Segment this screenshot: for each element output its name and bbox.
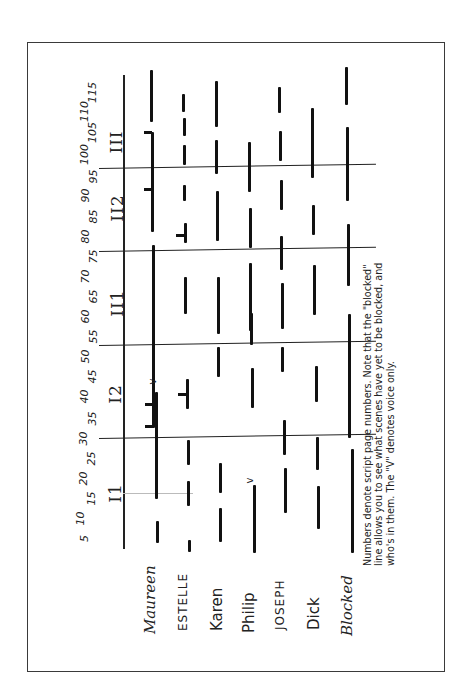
blocked-segment [348,314,351,438]
tick-label: 95 [87,170,100,184]
voice-only-mark: v [244,478,255,484]
scene-divider-ii1 [99,341,376,347]
estelle-segment [187,440,190,465]
joseph-segment [281,347,284,372]
estelle-segment [188,540,191,552]
tick-label: 20 [77,472,90,486]
tick-label: 55 [87,330,100,344]
philip-segment [251,368,254,408]
tick-label: 5 [78,535,91,542]
karen-segment [215,140,218,174]
blocked-segment [345,67,348,105]
scene-divider-ii2 [99,247,376,253]
dick-segment [316,437,319,470]
character-label-maureen: Maureen [141,565,159,634]
scene-divider-iii [99,164,376,170]
karen-segment [217,347,220,377]
maureen-entrance-tick [144,188,152,191]
character-label-karen: Karen [208,588,226,631]
karen-segment [219,463,222,493]
dick-segment [311,108,314,178]
joseph-segment [284,468,287,513]
joseph-segment [281,283,284,329]
character-label-blocked: Blocked [338,575,356,636]
tick-label: 60 [79,310,92,324]
scene-label-ii2: II2 [107,194,127,221]
joseph-segment [279,131,282,161]
tick-label: 65 [87,290,100,304]
philip-segment [250,313,253,345]
tick-label: 100 [78,144,91,165]
maureen-entrance-tick [144,131,152,134]
tick-label: 10 [74,512,87,526]
philip-segment [249,208,252,248]
scene-label-i1: I1 [105,483,125,503]
estelle-segment [187,481,190,506]
dick-segment [313,265,316,315]
character-label-joseph: JOSEPH [273,580,287,630]
blocked-segment [346,127,349,201]
maureen-segment [156,521,159,543]
chart: 5 10 15 20 25 30 35 40 45 50 55 60 65 70… [0,0,473,695]
estelle-entrance-tick [176,234,184,237]
tick-label: 110 [78,101,91,122]
karen-segment [215,81,218,127]
tick-label: 80 [79,230,92,244]
dick-segment [317,486,320,529]
maureen-entrance-tick [145,403,153,406]
tick-label: 90 [79,189,92,203]
estelle-segment [183,118,186,136]
tick-label: 40 [78,390,91,404]
karen-segment [219,508,222,542]
tick-label: 105 [86,122,99,143]
estelle-segment [183,145,186,165]
karen-segment [217,277,220,334]
tick-label: 70 [79,270,92,284]
estelle-segment [184,277,187,314]
estelle-segment [183,185,186,201]
joseph-segment [278,87,281,113]
maureen-segment [150,70,153,122]
estelle-segment [184,223,187,243]
estelle-segment [182,94,185,112]
blocked-segment [347,224,350,286]
scene-divider-i1 [123,493,193,494]
estelle-segment [186,379,189,409]
karen-segment [216,191,219,241]
joseph-segment [283,420,286,455]
maureen-segment [151,132,154,232]
tick-label: 115 [86,82,99,103]
tick-label: 15 [85,492,98,506]
philip-segment [253,485,256,553]
tick-label: 75 [87,250,100,264]
tick-label: 85 [87,210,100,224]
scene-label-iii: III [106,130,126,153]
tick-label: 30 [77,432,90,446]
philip-segment [248,142,251,192]
scene-divider-i2 [99,434,376,440]
maureen-segment [155,392,158,499]
character-label-estelle: ESTELLE [176,573,190,631]
voice-only-mark: v [147,379,158,385]
dick-segment [312,205,315,235]
tick-label: 25 [85,452,98,466]
joseph-segment [280,180,283,210]
character-label-philip: Philip [240,592,258,633]
joseph-segment [280,236,283,270]
legend-note: Numbers denote script page numbers. Note… [362,246,396,566]
tick-label: 50 [79,350,92,364]
dick-segment [315,366,318,402]
character-label-dick: Dick [305,597,323,630]
maureen-entrance-tick [145,425,153,428]
estelle-entrance-tick [178,393,186,396]
scene-label-i2: I2 [105,384,125,404]
blocked-segment [351,449,354,553]
tick-label: 35 [86,412,99,426]
scene-label-ii1: II1 [107,289,127,316]
tick-label: 45 [86,370,99,384]
